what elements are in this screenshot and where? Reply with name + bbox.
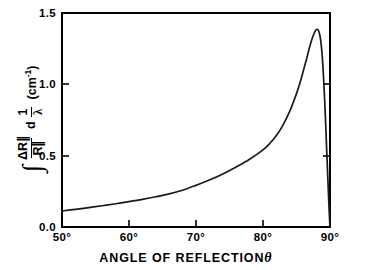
lambda-fraction-numerator: 1 — [17, 106, 31, 117]
data-curve — [62, 29, 330, 227]
delta-r-over-r-fraction: ΔR∥ R∥ — [17, 133, 45, 162]
x-tick-label-60: 60° — [113, 231, 145, 243]
integral-symbol: ∫ — [23, 165, 42, 172]
x-tick-label-70: 70° — [180, 231, 212, 243]
theta-symbol: θ — [264, 250, 271, 265]
differential-d: d — [24, 120, 38, 130]
plot-frame — [62, 13, 330, 227]
reflectance-angle-chart: 1.5 1.0 0.5 0.0 50° 60° 70° 80° 90° ANGL… — [0, 0, 371, 270]
units-open: (cm — [25, 77, 39, 99]
one-over-lambda-fraction: 1 λ — [17, 106, 45, 117]
x-axis-title-text: ANGLE OF REFLECTION — [99, 251, 264, 265]
y-axis-units: (cm-1) — [23, 66, 39, 104]
x-tick-label-80: 80° — [247, 231, 279, 243]
lambda-symbol: λ — [31, 107, 46, 117]
fraction-numerator: ΔR∥ — [17, 133, 31, 162]
fraction-denominator: R∥ — [31, 138, 46, 158]
y-axis-tickmarks — [62, 84, 330, 156]
x-tick-label-50: 50° — [46, 231, 78, 243]
x-axis-tickmarks — [129, 220, 263, 227]
x-tick-label-90: 90° — [314, 231, 346, 243]
x-axis-title: ANGLE OF REFLECTIONθ — [0, 250, 371, 266]
units-close: ) — [25, 66, 39, 70]
units-exponent: -1 — [23, 70, 33, 78]
y-axis-title: ∫ ΔR∥ R∥ d 1 λ (cm-1) — [17, 14, 45, 224]
